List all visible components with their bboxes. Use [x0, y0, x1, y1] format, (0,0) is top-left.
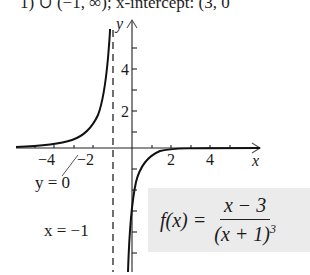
x-tick-label-2: 2: [167, 152, 175, 168]
formula-box: f(x) = x − 3 (x + 1)3: [148, 188, 310, 252]
formula-lhs: f(x) =: [160, 209, 206, 232]
vertical-asymptote-label: x = −1: [44, 222, 89, 239]
horizontal-asymptote-label: y = 0: [35, 174, 70, 191]
y-tick-label-2: 2: [121, 104, 129, 120]
y-tick-label-4: 4: [121, 62, 129, 78]
y-axis-label: y: [116, 16, 123, 32]
formula-numerator: x − 3: [220, 194, 270, 220]
y-axis: [127, 20, 137, 272]
curve-left-branch: [16, 29, 110, 147]
x-axis-label: x: [252, 153, 259, 169]
formula-exponent: 3: [270, 222, 276, 236]
function-formula: f(x) = x − 3 (x + 1)3: [160, 192, 276, 248]
x-tick-label-neg2: −2: [77, 152, 94, 168]
formula-fraction: x − 3 (x + 1)3: [214, 194, 276, 246]
x-tick-label-4: 4: [206, 152, 214, 168]
x-tick-label-neg4: −4: [38, 152, 55, 168]
formula-denominator: (x + 1)3: [214, 220, 276, 246]
